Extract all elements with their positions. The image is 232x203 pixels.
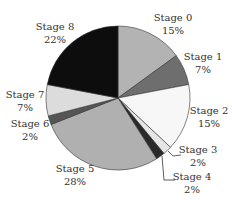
slice-label-stage-3: Stage 3: [179, 144, 218, 155]
slice-label-stage-4: Stage 4: [173, 171, 212, 182]
slice-percent-stage-4: 2%: [184, 184, 200, 195]
slice-percent-stage-5: 28%: [64, 176, 86, 187]
slice-label-stage-1: Stage 1: [184, 51, 223, 62]
slice-label-stage-8: Stage 8: [36, 21, 75, 32]
slice-percent-stage-3: 2%: [190, 157, 206, 168]
slice-percent-stage-1: 7%: [195, 64, 211, 75]
slice-label-stage-5: Stage 5: [56, 163, 95, 174]
slice-label-stage-0: Stage 0: [154, 12, 193, 23]
slice-percent-stage-2: 15%: [198, 118, 220, 129]
pie-chart-canvas: Stage 015%Stage 17%Stage 215%Stage 32%St…: [0, 0, 232, 203]
pie-slices: [46, 26, 190, 170]
slice-percent-stage-6: 2%: [22, 131, 38, 142]
slice-label-stage-7: Stage 7: [6, 89, 45, 100]
slice-label-stage-2: Stage 2: [190, 105, 229, 116]
slice-label-stage-6: Stage 6: [11, 118, 50, 129]
slice-percent-stage-0: 15%: [162, 25, 184, 36]
slice-percent-stage-8: 22%: [44, 34, 66, 45]
slice-percent-stage-7: 7%: [17, 102, 33, 113]
pie-chart: Stage 015%Stage 17%Stage 215%Stage 32%St…: [0, 0, 232, 203]
